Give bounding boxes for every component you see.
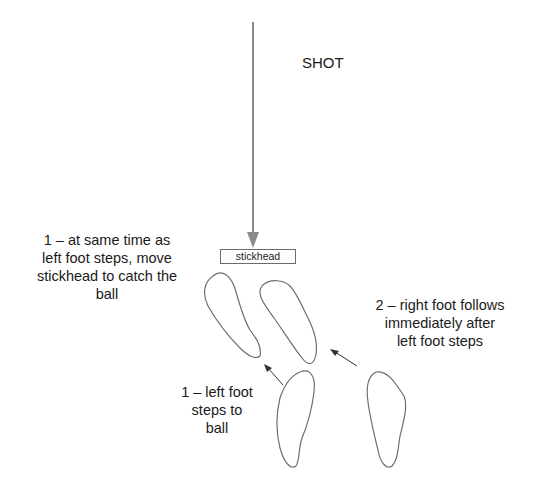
annotation-line: stickhead to catch the [14, 267, 200, 285]
right-foot-step-arrow [330, 349, 357, 366]
annotation-line: 2 – right foot follows [350, 296, 530, 314]
shot-label: SHOT [302, 54, 344, 71]
annotation-line: left foot steps [350, 332, 530, 350]
footprint-right-lower [367, 372, 405, 467]
annotation-line: immediately after [350, 314, 530, 332]
shot-arrow [247, 22, 259, 248]
stickhead-box: stickhead [220, 249, 296, 264]
annotation-line: steps to [162, 401, 272, 419]
left-foot-step-arrow [264, 364, 283, 385]
annotation-line: ball [162, 419, 272, 437]
footprint-left-lower [277, 371, 314, 467]
stickhead-label: stickhead [236, 250, 280, 262]
footprint-right-upper [260, 281, 317, 364]
footprint-left-upper [205, 273, 261, 358]
annotation-right-foot: 2 – right foot follows immediately after… [350, 296, 530, 350]
annotation-line: 1 – at same time as [14, 231, 200, 249]
annotation-stickhead-move: 1 – at same time as left foot steps, mov… [14, 231, 200, 303]
annotation-line: ball [14, 285, 200, 303]
annotation-line: 1 – left foot [162, 383, 272, 401]
annotation-left-foot: 1 – left foot steps to ball [162, 383, 272, 437]
annotation-line: left foot steps, move [14, 249, 200, 267]
